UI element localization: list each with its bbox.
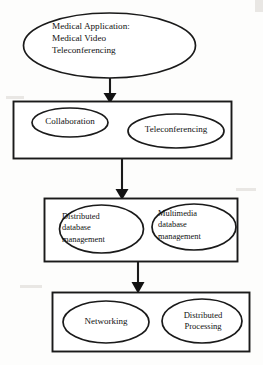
networking-ellipse [63, 301, 149, 343]
collaboration-ellipse [32, 108, 108, 137]
scan-artifact [6, 96, 24, 99]
diagram-vector-layer [0, 0, 263, 365]
distributed-processing-ellipse [162, 299, 242, 343]
teleconferencing-ellipse [128, 114, 224, 148]
root-node-ellipse [24, 13, 196, 78]
flowchart-diagram: Medical Application: Medical Video Telec… [0, 0, 263, 365]
scan-artifact [236, 188, 256, 191]
scan-artifact [20, 285, 42, 288]
multimedia-db-ellipse [152, 204, 236, 250]
distributed-db-ellipse [60, 205, 144, 253]
scan-artifact [255, 0, 263, 12]
